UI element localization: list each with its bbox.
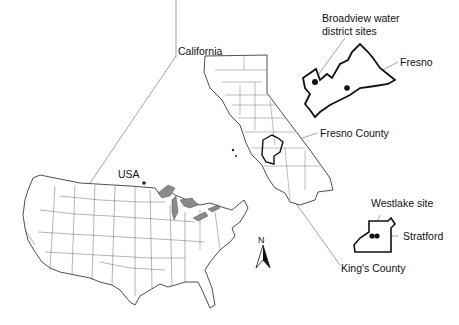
usa-map: [23, 175, 248, 308]
fresno-label: Fresno: [400, 56, 433, 68]
usa-label: USA: [118, 168, 140, 180]
stratford-label: Stratford: [403, 230, 443, 242]
broadview-label-line2: district sites: [322, 25, 377, 37]
kings-county-inset: [354, 218, 395, 252]
fresno-county-label: Fresno County: [320, 127, 389, 139]
westlake-label: Westlake site: [371, 197, 433, 209]
westlake-site-marker-2: [374, 233, 379, 238]
fresno-marker: [344, 85, 350, 91]
north-label: N: [258, 234, 265, 246]
north-arrow-icon: [256, 245, 270, 268]
broadview-label-line1: Broadview water: [322, 12, 400, 24]
california-label: California: [178, 45, 222, 57]
broadview-site-marker: [312, 79, 318, 85]
westlake-site-marker-1: [369, 233, 374, 238]
location-map: [0, 0, 459, 325]
kings-county-label: King's County: [341, 262, 405, 274]
